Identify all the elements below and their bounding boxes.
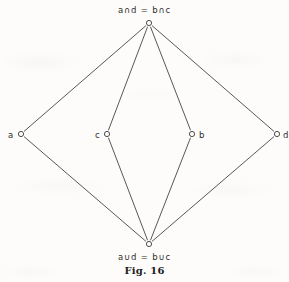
node-top[interactable] (146, 20, 151, 25)
node-c[interactable] (104, 131, 109, 136)
edge-layer (24, 26, 274, 242)
node-label-a: a (8, 130, 14, 140)
edge-top-b (150, 27, 190, 131)
figure-canvas: a∩d = b∩cacbda∪d = b∪c Fig. 16 (0, 0, 289, 282)
node-label-c: c (95, 130, 100, 140)
node-d[interactable] (274, 131, 279, 136)
node-label-d: d (283, 130, 289, 140)
node-label-b: b (199, 130, 205, 140)
edge-b-bottom (150, 138, 190, 241)
hasse-diagram-graphic (0, 0, 289, 282)
node-layer (18, 20, 279, 246)
node-a[interactable] (18, 131, 23, 136)
edge-top-c (108, 27, 147, 131)
node-label-top: a∩d = b∩c (0, 5, 289, 15)
node-b[interactable] (189, 131, 194, 136)
edge-c-bottom (108, 138, 147, 241)
node-bottom[interactable] (146, 241, 151, 246)
node-label-bottom: a∪d = b∪c (0, 252, 289, 262)
figure-caption: Fig. 16 (0, 265, 289, 276)
